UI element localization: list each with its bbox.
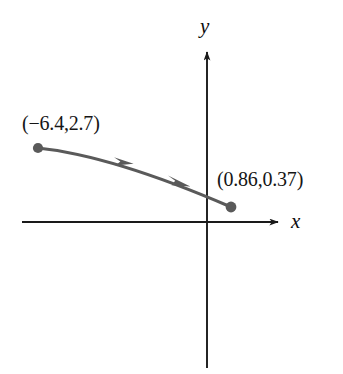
- x-axis-label: x: [291, 211, 300, 232]
- start-point-marker: [33, 143, 43, 153]
- start-point-label: (−6.4,2.7): [22, 113, 100, 133]
- end-point-marker: [226, 202, 237, 213]
- vector-diagram-figure: y x (−6.4,2.7) (0.86,0.37): [0, 0, 343, 374]
- y-axis-label: y: [200, 16, 209, 37]
- direction-arrow-2-icon: [168, 176, 190, 187]
- trajectory-curve: [38, 148, 231, 207]
- end-point-label: (0.86,0.37): [217, 169, 303, 189]
